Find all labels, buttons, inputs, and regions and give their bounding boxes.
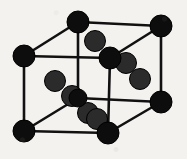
corner-atom-front-bottom-right <box>97 122 119 144</box>
interior-atom-chain-a-3 <box>130 69 151 90</box>
interior-atom-chain-a-1 <box>85 31 106 52</box>
corner-atom-back-bottom-right <box>150 91 172 113</box>
corner-atom-front-top-right <box>99 47 121 69</box>
interior-atom-chain-b-1 <box>45 71 66 92</box>
corner-atom-back-bottom-left <box>69 89 87 107</box>
crystal-lattice-figure <box>0 0 187 159</box>
corner-atom-back-top-left <box>67 11 89 33</box>
lattice-diagram <box>0 0 187 159</box>
corner-atom-front-bottom-left <box>13 120 35 142</box>
corner-atom-front-top-left <box>13 45 35 67</box>
corner-atom-back-top-right <box>150 15 172 37</box>
